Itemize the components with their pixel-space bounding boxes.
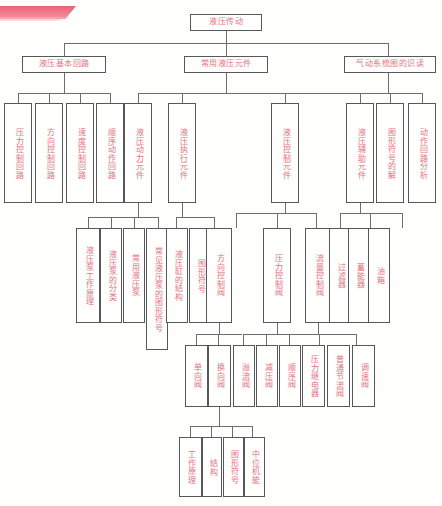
node-pump-types[interactable]: 液压泵的分类 (100, 228, 122, 323)
node-reducing-valve[interactable]: 减压阀 (256, 345, 278, 407)
node-flow-valve[interactable]: 流量控制阀 (305, 228, 331, 323)
connector-bus (243, 334, 319, 335)
connector (138, 203, 139, 217)
connector (219, 407, 220, 426)
node-actuator-element[interactable]: 液压执行元件 (168, 103, 196, 203)
connector (390, 93, 391, 103)
connector-bus (196, 334, 242, 335)
node-speed-circuit[interactable]: 速度控制回路 (66, 103, 94, 203)
node-sequence-valve[interactable]: 顺序阀 (279, 345, 301, 407)
node-basic-circuits[interactable]: 液压基本回路 (22, 56, 106, 73)
connector (277, 213, 278, 228)
node-throttle-valve[interactable]: 普通节流阀 (327, 345, 350, 407)
connector (226, 43, 227, 56)
node-root[interactable]: 液压传动 (190, 14, 262, 31)
connector (49, 93, 50, 103)
node-pressure-relay[interactable]: 压力继电器 (302, 345, 325, 407)
connector (18, 93, 19, 103)
connector-bus (318, 334, 356, 335)
connector-bus (190, 426, 252, 427)
node-pneumatic-reading[interactable]: 气动系统图的识读 (344, 56, 436, 73)
node-neutral-function[interactable]: 中位机能 (244, 437, 265, 497)
connector (266, 334, 267, 345)
connector-bus (236, 213, 316, 214)
connector (176, 217, 177, 228)
connector (289, 334, 290, 345)
connector (226, 73, 227, 93)
connector (138, 93, 139, 103)
connector (340, 213, 341, 228)
node-pump-principle[interactable]: 液压泵工作原理 (76, 228, 100, 323)
connector (110, 93, 111, 103)
connector (214, 217, 215, 228)
connector (80, 93, 81, 103)
connector (356, 334, 357, 345)
connector (285, 93, 286, 103)
node-structure[interactable]: 结构 (202, 437, 222, 497)
connector (370, 213, 371, 228)
connector (219, 323, 220, 334)
connector (232, 426, 233, 437)
connector (360, 93, 361, 103)
connector (196, 334, 197, 345)
connector (319, 334, 320, 345)
node-graphic-symbol[interactable]: 图形符号 (223, 437, 244, 497)
node-pressure-circuit[interactable]: 压力控制回路 (4, 103, 32, 203)
connector (316, 213, 317, 228)
connector-bus (176, 217, 214, 218)
node-direction-circuit[interactable]: 方向控制回路 (35, 103, 63, 203)
connector (422, 93, 423, 103)
connector (243, 334, 244, 345)
connector-bus (340, 213, 402, 214)
node-speed-valve[interactable]: 调速阀 (352, 345, 375, 407)
connector (158, 217, 159, 228)
connector (64, 73, 65, 93)
node-work-principle[interactable]: 工作原理 (179, 437, 202, 497)
node-control-element[interactable]: 液压控制元件 (271, 103, 299, 203)
decorative-banner-shadow (0, 17, 70, 21)
connector (360, 203, 361, 213)
connector (285, 203, 286, 213)
connector (277, 323, 278, 334)
diagram-canvas: 液压传动 液压基本回路 常用液压元件 气动系统图的识读 压力控制回路 方向控制回… (0, 0, 442, 506)
connector (218, 334, 219, 345)
node-direction-valve[interactable]: 方向控制阀 (206, 228, 232, 323)
node-pressure-valve[interactable]: 压力控制阀 (263, 228, 291, 323)
node-common-pumps[interactable]: 常用液压泵 (123, 228, 145, 323)
node-common-components[interactable]: 常用液压元件 (184, 56, 268, 73)
node-auxiliary-element[interactable]: 液压辅助元件 (346, 103, 374, 203)
node-check-valve[interactable]: 单向阀 (185, 345, 208, 407)
node-reversing-valve[interactable]: 换向阀 (208, 345, 231, 407)
connector (111, 217, 112, 228)
connector (388, 73, 389, 93)
connector (182, 93, 183, 103)
node-cylinder-structure[interactable]: 液压缸的结构 (166, 228, 188, 323)
node-circuit-analysis[interactable]: 动作回路分析 (408, 103, 436, 203)
connector (88, 217, 89, 228)
connector (211, 426, 212, 437)
connector (134, 217, 135, 228)
node-relief-valve[interactable]: 溢流阀 (233, 345, 255, 407)
connector-bus (88, 217, 158, 218)
connector (64, 43, 65, 56)
connector-bus (138, 93, 360, 94)
connector (190, 426, 191, 437)
node-symbol-explain[interactable]: 图形符号的解 (376, 103, 404, 203)
connector (402, 213, 403, 228)
node-tank[interactable]: 油箱 (368, 228, 390, 323)
connector-bus (18, 93, 110, 94)
connector (318, 323, 319, 334)
node-pump-symbols[interactable]: 常见液压泵的图形符号 (146, 228, 168, 350)
connector (252, 426, 253, 437)
connector (182, 203, 183, 217)
connector-bus (360, 93, 422, 94)
connector (236, 213, 237, 228)
node-power-element[interactable]: 液压动力元件 (124, 103, 152, 203)
connector (226, 31, 227, 43)
connector (388, 43, 389, 56)
node-accumulator[interactable]: 蓄能器 (348, 228, 370, 323)
node-sequence-circuit[interactable]: 顺序动作回路 (96, 103, 124, 203)
